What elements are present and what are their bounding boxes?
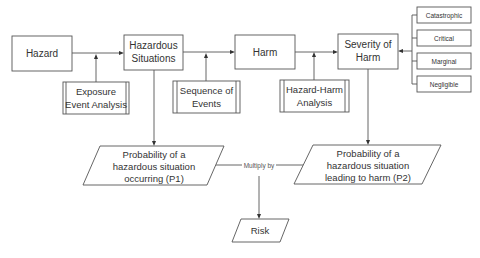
arrowhead-icon [204, 53, 208, 58]
node-harm: Harm [235, 35, 295, 69]
arrowhead-icon [230, 50, 235, 54]
node-hazard-harm-analysis: Hazard-Harm Analysis [280, 80, 349, 112]
severity-level-marginal: Marginal [417, 53, 471, 69]
arrowhead-icon [257, 214, 261, 219]
severity-level-label: Negligible [430, 81, 459, 89]
node-hazard: Hazard [12, 36, 72, 71]
arrowhead-icon [312, 52, 316, 57]
node-label-line: Probability of a [123, 149, 187, 160]
arrowhead-icon [119, 51, 124, 55]
node-label-line: Situations [132, 53, 176, 64]
arrowhead-icon [398, 49, 403, 53]
severity-level-label: Marginal [432, 58, 457, 66]
node-exposure-event-analysis: Exposure Event Analysis [63, 82, 129, 114]
node-label-line: Severity of [344, 39, 391, 50]
severity-level-label: Catastrophic [426, 12, 463, 20]
arrowhead-icon [94, 54, 98, 59]
node-harm-label: Harm [253, 47, 277, 58]
node-probability-p2: Probability of a hazardous situation lea… [294, 145, 441, 184]
node-label-line: Analysis [297, 97, 333, 108]
node-sequence-of-events: Sequence of Events [173, 81, 240, 113]
node-risk-label: Risk [251, 225, 270, 236]
node-label-line: Hazard-Harm [286, 84, 343, 95]
severity-level-catastrophic: Catastrophic [417, 7, 471, 23]
node-risk: Risk [232, 219, 289, 242]
arrowhead-icon [152, 141, 156, 146]
arrowhead-icon [333, 50, 338, 54]
node-label-line: leading to harm (P2) [325, 172, 411, 183]
node-probability-p1: Probability of a hazardous situation occ… [83, 146, 224, 185]
node-label-line: Event Analysis [65, 99, 127, 110]
node-label-line: Sequence of [180, 85, 234, 96]
node-label-line: Events [192, 98, 221, 109]
node-label-line: hazardous situation [113, 161, 195, 172]
severity-level-negligible: Negligible [417, 76, 471, 92]
node-hazard-label: Hazard [26, 48, 58, 59]
multiply-by-label: Multiply by [244, 162, 275, 170]
node-severity-of-harm: Severity of Harm [338, 34, 398, 69]
node-label-line: Exposure [76, 86, 116, 97]
arrowhead-icon [366, 140, 370, 145]
node-label-line: Hazardous [129, 40, 177, 51]
node-hazardous-situations: Hazardous Situations [124, 35, 183, 70]
node-label-line: occurring (P1) [124, 173, 184, 184]
risk-analysis-diagram: Hazard Hazardous Situations Harm Severit… [0, 0, 480, 258]
severity-level-label: Critical [434, 35, 454, 42]
node-label-line: Harm [356, 52, 380, 63]
node-label-line: Probability of a [337, 148, 401, 159]
severity-level-critical: Critical [417, 30, 471, 46]
node-label-line: hazardous situation [327, 160, 409, 171]
